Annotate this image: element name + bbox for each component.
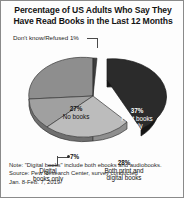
chart-footnote: Note: "Digital books" include both ebook… — [9, 161, 181, 186]
pie-slice-dont-know[interactable] — [93, 58, 97, 96]
pie-chart: 37% Print books only 27% No books 28% Bo… — [15, 43, 171, 155]
footnote-note: Note: "Digital books" include both ebook… — [9, 161, 181, 169]
chart-figure: Percentage of US Adults Who Say They Hav… — [0, 0, 184, 198]
pie-label-digital-only-pct: 7% — [70, 153, 79, 160]
dont-know-callout-label: Don't know/Refused 1% — [13, 34, 79, 41]
footnote-date: Jan. 8-Feb. 7, 2019. — [9, 178, 181, 186]
chart-title: Percentage of US Adults Who Say They Hav… — [8, 5, 178, 27]
pie-slice-no-books[interactable] — [29, 57, 93, 99]
footnote-source: Source: Pew Research Center, survey cond… — [9, 169, 181, 177]
chart-title-line-1: Percentage of US Adults Who Say They — [14, 5, 171, 15]
chart-title-line-2: Have Read Books in the Last 12 Months — [13, 16, 172, 26]
pie-chart-svg — [15, 43, 171, 155]
